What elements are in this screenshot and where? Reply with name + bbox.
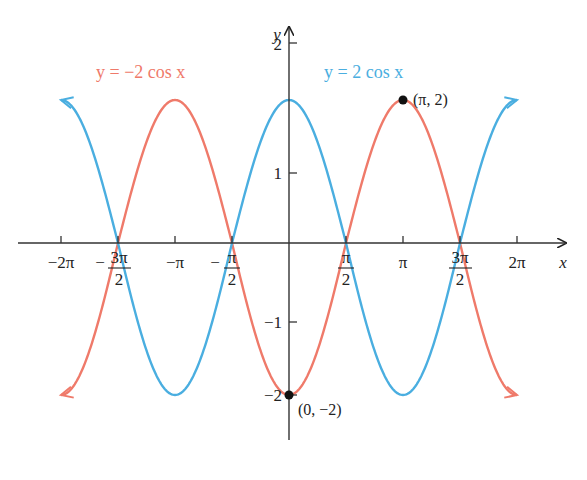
point-label-0-neg2: (0, −2) [298,401,342,419]
y-label-neg1: −1 [264,313,282,332]
x-label-neg-3pi2-den: 2 [115,270,124,289]
x-label-pi2-num: π [342,248,351,267]
x-label-neg-pi2-sign: − [210,253,220,272]
x-label-pi2-den: 2 [342,270,351,289]
x-label-neg-pi2-den: 2 [228,270,237,289]
y-label-neg2: −2 [264,386,282,405]
y-axis-label: y [271,25,281,44]
label-2cos: y = 2 cos x [324,62,403,82]
cosine-graph: −2π − 3π 2 −π − π 2 π 2 π 3π 2 2π x 2 1 … [0,0,587,480]
x-tick-labels: −2π − 3π 2 −π − π 2 π 2 π 3π 2 2π x [48,248,568,289]
x-label-3pi2-den: 2 [456,270,465,289]
x-label-neg-pi: −π [166,253,185,272]
x-label-neg-3pi2-num: 3π [110,248,128,267]
x-label-3pi2-num: 3π [451,248,469,267]
x-label-neg-3pi2-sign: − [95,253,105,272]
label-neg-2cos: y = −2 cos x [96,62,185,82]
point-label-pi-2: (π, 2) [413,91,448,109]
point-0-neg2 [285,391,294,400]
y-tick-labels: 2 1 −1 −2 y [264,25,282,405]
y-label-1: 1 [274,164,283,183]
x-label-neg-2pi: −2π [48,253,75,272]
x-label-pi: π [399,253,408,272]
x-label-2pi: 2π [508,253,526,272]
x-axis-label: x [558,253,567,272]
y-ticks [289,43,297,395]
point-pi-2 [399,96,408,105]
x-label-neg-pi2-num: π [228,248,237,267]
